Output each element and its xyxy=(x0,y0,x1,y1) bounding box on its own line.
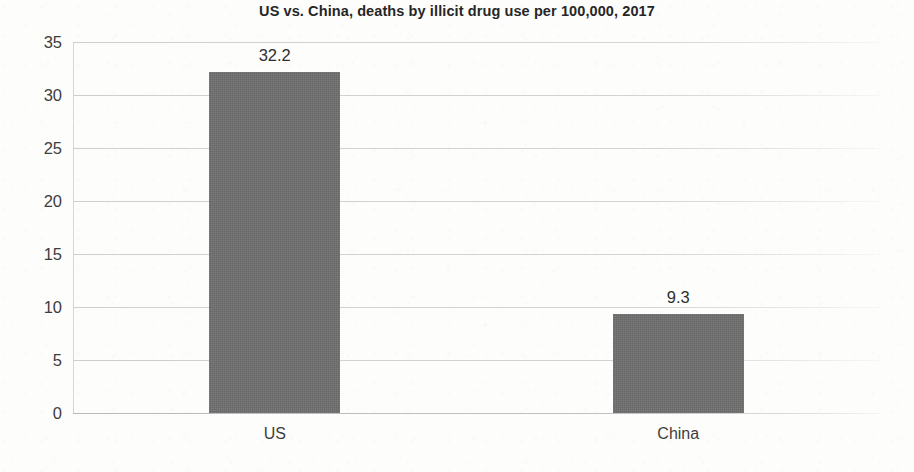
gridline xyxy=(73,148,880,149)
y-axis-tick-label: 15 xyxy=(10,245,62,264)
gridline xyxy=(73,42,880,43)
gridline xyxy=(73,95,880,96)
y-axis-tick-labels: 35302520151050 xyxy=(0,42,62,413)
y-axis-tick-label: 35 xyxy=(10,33,62,52)
bar-us xyxy=(209,72,340,413)
chart-title: US vs. China, deaths by illicit drug use… xyxy=(0,3,914,19)
gridline xyxy=(73,307,880,308)
x-axis-category-label: China xyxy=(657,425,699,443)
x-axis-category-label: US xyxy=(264,425,286,443)
bar-china xyxy=(613,314,744,413)
bar-value-label: 32.2 xyxy=(259,46,291,65)
y-axis-tick-label: 30 xyxy=(10,86,62,105)
y-axis-tick-label: 20 xyxy=(10,192,62,211)
bar-value-label: 9.3 xyxy=(667,288,690,307)
y-axis-tick-label: 0 xyxy=(10,404,62,423)
y-axis-tick-label: 25 xyxy=(10,139,62,158)
chart-screenshot: US vs. China, deaths by illicit drug use… xyxy=(0,0,914,472)
y-axis-tick-label: 10 xyxy=(10,298,62,317)
x-axis-line xyxy=(73,413,880,414)
plot-area xyxy=(73,42,880,413)
gridline xyxy=(73,201,880,202)
y-axis-tick-label: 5 xyxy=(10,351,62,370)
gridline xyxy=(73,360,880,361)
gridline xyxy=(73,254,880,255)
